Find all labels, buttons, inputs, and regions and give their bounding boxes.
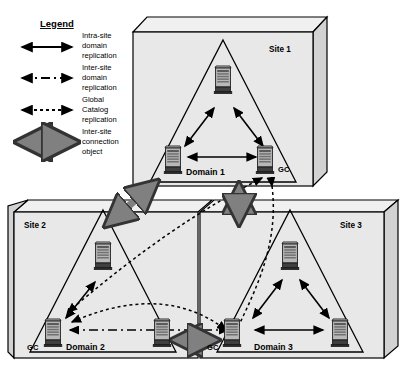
site1-label: Site 1 [269,45,291,54]
legend-item-1-line2: domain [82,73,107,82]
legend-item-3-line1: Inter-site [82,127,112,136]
server-icon [223,319,241,347]
server-icon [44,319,62,347]
server-icon [164,146,182,174]
server-icon [153,319,171,347]
site3-domain-label: Domain 3 [254,342,293,352]
site3-gc-label: GC [207,343,219,352]
server-icon [331,319,349,347]
legend-item-3-line2: connection [82,137,119,146]
legend-item-2-line2: Catalog [82,105,108,114]
legend-item-2-line1: Global [82,95,104,104]
legend-heading: Legend [40,18,74,29]
site2-gc-label: GC [27,343,39,352]
topology-svg: Legend Intra-site domain replication Int… [0,0,408,384]
server-icon [214,66,232,94]
site2-label: Site 2 [24,221,46,230]
legend-item-0-line3: replication [82,51,117,60]
legend-item-3-line3: object [82,147,103,156]
server-icon [281,242,299,270]
legend-item-2-line3: replication [82,115,117,124]
legend-item-0-line2: domain [82,41,107,50]
site1-gc-label: GC [278,165,290,174]
legend-item-1-line3: replication [82,83,117,92]
site2-domain-label: Domain 2 [66,342,105,352]
site1-domain-label: Domain 1 [186,167,225,177]
legend-item-1-line1: Inter-site [82,63,112,72]
server-icon [256,146,274,174]
legend-item-0-line1: Intra-site [82,31,112,40]
site1-box [133,17,327,186]
server-icon [94,242,112,270]
diagram-canvas: Legend Intra-site domain replication Int… [0,0,408,384]
site3-label: Site 3 [340,221,362,230]
